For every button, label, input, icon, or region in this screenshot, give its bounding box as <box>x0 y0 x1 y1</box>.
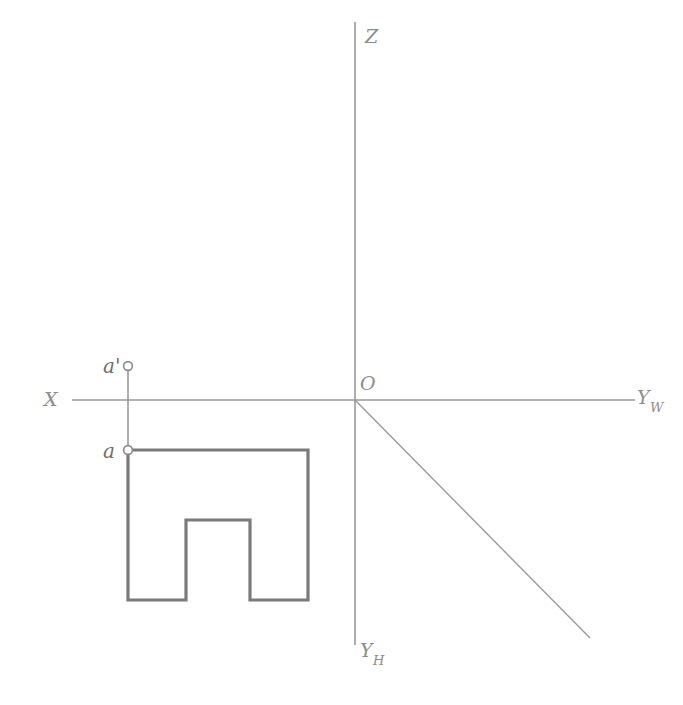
origin-label: O <box>360 372 376 394</box>
x-axis-label: X <box>42 388 59 410</box>
point-marker-a <box>124 446 133 455</box>
z-axis-label: Z <box>364 25 379 47</box>
yh-axis-subscript: H <box>372 653 385 668</box>
point-label-a: a <box>103 439 115 463</box>
drawing-canvas: 求作形体的侧面投影 Z X O Y W Y H a' a <box>0 0 683 705</box>
point-marker-a-prime <box>124 362 133 371</box>
projection-diagram: Z X O Y W Y H a' a <box>0 0 683 705</box>
u-shape-outline <box>128 450 308 600</box>
yw-axis-subscript: W <box>650 400 665 415</box>
y-diagonal-line <box>355 400 590 638</box>
point-label-a-prime: a' <box>103 354 120 378</box>
